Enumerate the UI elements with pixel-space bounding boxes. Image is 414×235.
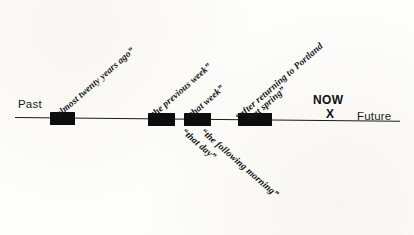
annotation-above-4: “after returning to Portland	[233, 41, 324, 122]
timeline-diagram: Past Future NOW X “almost twenty years a…	[0, 0, 414, 235]
axis-label-past: Past	[18, 98, 42, 110]
annotation-above-1: “almost twenty years ago”	[50, 45, 136, 122]
axis-label-future: Future	[357, 110, 391, 122]
now-label: NOW	[313, 93, 344, 107]
annotation-below-2: “the following morning”	[199, 126, 281, 199]
now-x-marker: X	[326, 107, 334, 121]
